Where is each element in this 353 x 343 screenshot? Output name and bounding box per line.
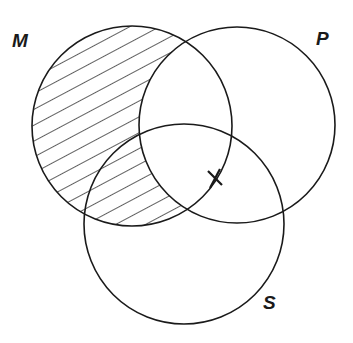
label-p: P xyxy=(316,28,329,50)
label-s: S xyxy=(263,292,276,314)
venn-diagram xyxy=(0,0,353,343)
label-m: M xyxy=(12,30,28,52)
shaded-region-m-not-p xyxy=(0,0,353,343)
